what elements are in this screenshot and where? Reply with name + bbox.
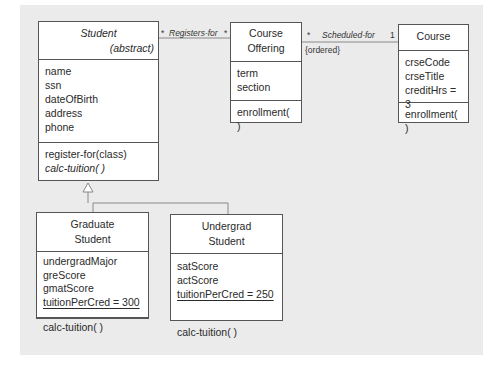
class-name: Offering [235, 41, 297, 56]
student-operations: register-for(class) calc-tuition( ) [39, 142, 158, 179]
attribute: ssn [45, 78, 152, 92]
attribute-static: tuitionPerCred = 300 [43, 296, 142, 310]
attribute-static: tuitionPerCred = 250 [177, 287, 276, 301]
operation: calc-tuition( ) [177, 325, 276, 339]
course-offering-header: Course Offering [231, 23, 301, 61]
class-student[interactable]: Student (abstract) name ssn dateOfBirth … [38, 21, 159, 181]
class-name: Undergrad [175, 219, 278, 234]
graduate-student-attributes: undergradMajor greScore gmatScore tuitio… [37, 251, 148, 317]
class-course-offering[interactable]: Course Offering term section enrollment(… [230, 22, 302, 123]
class-name: Student [41, 232, 144, 247]
attribute: term [237, 66, 295, 80]
class-graduate-student[interactable]: Graduate Student undergradMajor greScore… [36, 212, 149, 319]
course-offering-operations: enrollment( ) [231, 100, 301, 137]
attribute: actScore [177, 273, 276, 287]
operation: calc-tuition( ) [45, 161, 152, 175]
class-name: Course [235, 26, 297, 41]
ordered-constraint: {ordered} [305, 45, 340, 55]
scheduled-for-label: Scheduled-for [322, 30, 375, 40]
course-header: Course [399, 25, 468, 50]
registers-for-mult-right: * [224, 28, 227, 38]
attribute: name [45, 64, 152, 78]
generalization-arrow-icon [83, 183, 93, 192]
attribute: undergradMajor [43, 255, 142, 269]
registers-for-label: Registers-for [169, 28, 218, 38]
scheduled-for-mult-right: 1 [390, 30, 395, 40]
attribute: greScore [43, 269, 142, 283]
operation: register-for(class) [45, 147, 152, 161]
course-offering-attributes: term section [231, 61, 301, 100]
operation: enrollment( ) [405, 107, 462, 135]
attribute: gmatScore [43, 282, 142, 296]
undergrad-student-attributes: satScore actScore tuitionPerCred = 250 [171, 253, 282, 320]
course-attributes: crseCode crseTitle creditHrs = 3 [399, 50, 468, 102]
attribute: address [45, 106, 152, 120]
attribute: dateOfBirth [45, 92, 152, 106]
undergrad-student-header: Undergrad Student [171, 215, 282, 253]
attribute: crseCode [405, 55, 462, 69]
class-name: Course [403, 29, 464, 44]
course-operations: enrollment( ) [399, 102, 468, 139]
student-name: Student [43, 26, 154, 41]
student-stereotype: (abstract) [43, 41, 154, 56]
attribute: phone [45, 120, 152, 134]
class-name: Student [175, 234, 278, 249]
graduate-student-operations: calc-tuition( ) [37, 317, 148, 338]
student-attributes: name ssn dateOfBirth address phone [39, 59, 158, 142]
attribute: crseTitle [405, 69, 462, 83]
class-name: Graduate [41, 217, 144, 232]
class-undergrad-student[interactable]: Undergrad Student satScore actScore tuit… [170, 214, 283, 321]
undergrad-student-operations: calc-tuition( ) [171, 320, 282, 343]
attribute: section [237, 80, 295, 94]
registers-for-mult-left: * [161, 28, 164, 38]
attribute: satScore [177, 259, 276, 273]
scheduled-for-mult-left: * [307, 30, 310, 40]
graduate-student-header: Graduate Student [37, 213, 148, 251]
operation: calc-tuition( ) [43, 320, 142, 334]
operation: enrollment( ) [237, 105, 295, 133]
class-course[interactable]: Course crseCode crseTitle creditHrs = 3 … [398, 24, 469, 123]
student-header: Student (abstract) [39, 22, 158, 59]
